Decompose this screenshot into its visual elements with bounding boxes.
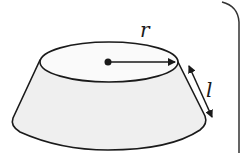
frame-border [222, 2, 239, 153]
frustum-figure: r l [0, 0, 241, 153]
slant-height-label: l [206, 78, 212, 102]
radius-label: r [140, 18, 151, 42]
frustum-diagram: r l [0, 0, 241, 153]
